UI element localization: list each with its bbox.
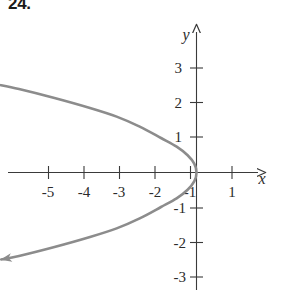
- x-tick-label: -4: [78, 184, 91, 200]
- x-tick-labels-group: -5 -4 -3 -2 -1 1: [42, 184, 236, 200]
- x-tick-label: -5: [42, 184, 55, 200]
- axes-group: [8, 32, 258, 290]
- y-tick-label: 1: [175, 129, 183, 145]
- y-tick-label: -2: [174, 235, 187, 251]
- coordinate-plot: x y -5 -4 -3 -2 -1 1: [0, 0, 282, 304]
- x-tick-label: -2: [149, 184, 162, 200]
- x-tick-label: 1: [228, 184, 236, 200]
- figure-page: 24. x y -5 -4: [0, 0, 282, 304]
- x-axis-label: x: [257, 170, 265, 187]
- y-axis-label: y: [180, 26, 190, 44]
- y-tick-label: -3: [174, 269, 187, 285]
- y-tick-label: 3: [175, 60, 183, 76]
- y-tick-label: 2: [175, 95, 183, 111]
- x-tick-label: -3: [113, 184, 126, 200]
- y-tick-label: -1: [174, 200, 187, 216]
